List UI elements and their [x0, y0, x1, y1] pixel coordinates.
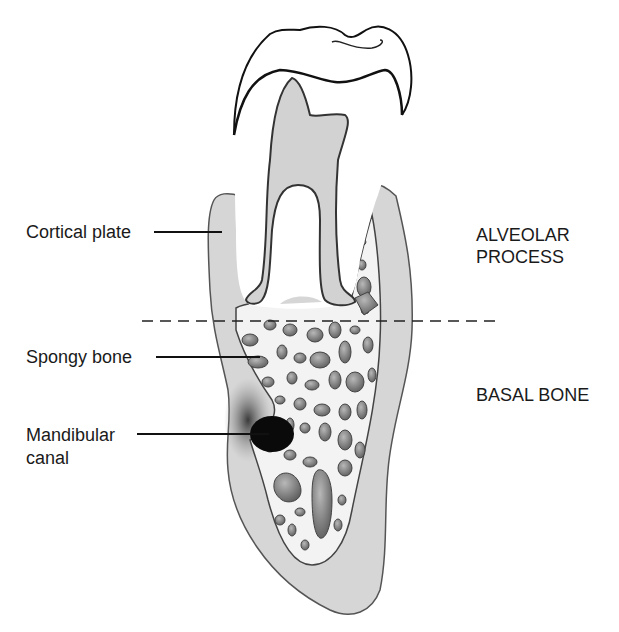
label-mandibular-canal-line2: canal — [26, 447, 69, 469]
label-basal-bone: BASAL BONE — [476, 384, 589, 406]
label-alveolar-line1: ALVEOLAR — [476, 224, 570, 246]
label-alveolar-line2: PROCESS — [476, 246, 564, 268]
label-spongy-bone: Spongy bone — [26, 346, 132, 368]
leader-cortical-plate — [154, 231, 222, 233]
tooth-bone-illustration — [0, 0, 619, 632]
leader-spongy-bone — [156, 356, 260, 358]
label-mandibular-canal-line1: Mandibular — [26, 424, 115, 446]
leader-mandibular-canal — [137, 433, 269, 435]
label-cortical-plate: Cortical plate — [26, 221, 131, 243]
